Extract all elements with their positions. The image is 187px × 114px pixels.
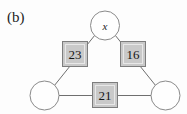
edge-weight-16: 16 bbox=[121, 42, 146, 67]
edge-weight-23-label: 23 bbox=[69, 47, 82, 62]
figure-panel-b: (b) 23 16 21 x bbox=[0, 0, 187, 114]
graph-diagram: 23 16 21 x bbox=[0, 0, 187, 114]
node-top: x bbox=[91, 11, 120, 40]
node-bottom-left bbox=[30, 81, 59, 110]
edge-weight-16-label: 16 bbox=[127, 47, 141, 62]
edge-weight-23: 23 bbox=[63, 42, 88, 67]
node-bottom-right bbox=[151, 81, 180, 110]
node-top-label: x bbox=[102, 20, 108, 32]
edge-weight-21: 21 bbox=[93, 83, 118, 108]
edge-weight-21-label: 21 bbox=[99, 88, 112, 103]
